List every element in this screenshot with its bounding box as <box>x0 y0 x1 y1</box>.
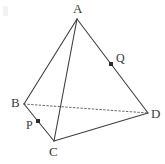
point-label-p: P <box>26 119 33 131</box>
vertex-label-d: D <box>151 107 160 120</box>
point-marker-q <box>109 62 113 66</box>
edge-bd <box>24 104 148 113</box>
point-label-q: Q <box>116 52 125 64</box>
geometry-figure: ABCDPQ <box>0 0 165 164</box>
tetrahedron-drawing <box>0 0 165 164</box>
point-marker-p <box>36 119 40 123</box>
vertex-label-c: C <box>49 145 58 158</box>
edge-cd <box>54 113 148 141</box>
point-marker-layer <box>36 62 113 123</box>
vertex-label-b: B <box>11 96 20 109</box>
vertex-label-a: A <box>73 2 82 15</box>
edge-layer <box>24 19 148 141</box>
